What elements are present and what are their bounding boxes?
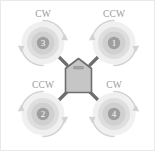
rotor-2-number: 2 <box>41 109 46 119</box>
drone-body-shell <box>66 59 92 93</box>
rotor-4-number: 4 <box>112 109 117 119</box>
rotor-1-number: 1 <box>112 38 117 48</box>
drone-body[interactable] <box>66 59 92 93</box>
rotor-4-direction-label: CW <box>106 80 122 90</box>
rotor-1-direction-label: CCW <box>103 9 125 19</box>
rotor-4[interactable]: 4 CW <box>89 80 139 137</box>
rotor-2[interactable]: 2 CCW <box>18 80 68 137</box>
rotor-2-direction-label: CCW <box>32 80 54 90</box>
drone-body-slot-icon <box>74 67 84 69</box>
rotor-3-number: 3 <box>41 38 46 48</box>
rotor-3-direction-label: CW <box>35 9 51 19</box>
quadcopter-diagram-canvas: 3 CW 1 <box>0 0 155 151</box>
quadcopter-diagram: 3 CW 1 <box>1 1 154 150</box>
